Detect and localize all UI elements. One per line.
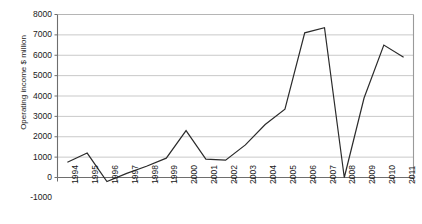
x-tick-label: 2001: [210, 165, 219, 184]
x-tick-label: 1999: [170, 165, 179, 184]
x-tick-label: 2009: [368, 165, 377, 184]
x-axis-tick-labels: 1994199519961997199819992000200120022003…: [0, 0, 422, 224]
x-tick-label: 2005: [289, 165, 298, 184]
x-tick-label: 1996: [111, 165, 120, 184]
x-tick-label: 2008: [348, 165, 357, 184]
x-tick-label: 1998: [151, 165, 160, 184]
x-tick-label: 2004: [269, 165, 278, 184]
x-tick-label: 1995: [91, 165, 100, 184]
x-tick-label: 2003: [249, 165, 258, 184]
x-tick-label: 2006: [309, 165, 318, 184]
x-tick-label: 2011: [408, 165, 417, 183]
x-tick-label: 1997: [131, 165, 140, 184]
x-tick-label: 2002: [230, 165, 239, 184]
x-tick-label: 1994: [71, 165, 80, 184]
x-tick-label: 2000: [190, 165, 199, 184]
operating-income-line-chart: Operating income $ million 8000700060005…: [0, 0, 422, 224]
x-tick-label: 2007: [329, 165, 338, 184]
x-tick-label: 2010: [388, 165, 397, 184]
